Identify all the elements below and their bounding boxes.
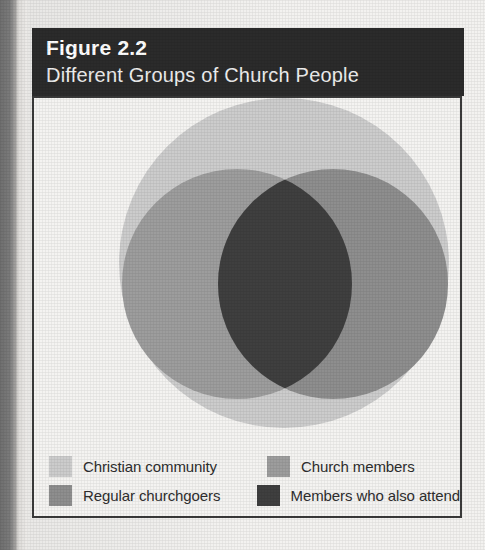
legend-entry: Church members — [267, 456, 415, 477]
venn-diagram — [34, 98, 460, 438]
figure-title: Different Groups of Church People — [46, 61, 464, 89]
scan-gutter-edge — [18, 0, 28, 550]
figure-body-frame: Christian community Church members Regul… — [32, 96, 462, 518]
legend-label: Members who also attend — [291, 487, 460, 504]
swatch-regular-churchgoers — [49, 485, 72, 506]
legend-row: Christian community Church members — [34, 452, 460, 481]
figure-block: Figure 2.2 Different Groups of Church Pe… — [32, 28, 464, 518]
swatch-church-members — [267, 456, 290, 477]
legend-row: Regular churchgoers Members who also att… — [34, 481, 460, 510]
figure-number: Figure 2.2 — [46, 35, 464, 61]
figure-header-bar: Figure 2.2 Different Groups of Church Pe… — [32, 28, 464, 96]
legend-label: Regular churchgoers — [83, 487, 220, 504]
legend-entry: Christian community — [49, 456, 267, 477]
legend-entry: Members who also attend — [257, 485, 460, 506]
legend-label: Church members — [301, 458, 415, 475]
venn-svg — [34, 98, 460, 438]
swatch-christian-community — [49, 456, 72, 477]
legend-entry: Regular churchgoers — [49, 485, 257, 506]
scan-gutter-shadow — [0, 0, 18, 550]
legend: Christian community Church members Regul… — [34, 452, 460, 510]
swatch-members-who-also-attend — [257, 485, 280, 506]
legend-label: Christian community — [83, 458, 217, 475]
